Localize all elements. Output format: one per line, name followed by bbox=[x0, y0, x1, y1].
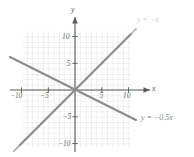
series-label-y-equals-x: y = −x bbox=[137, 16, 159, 24]
x-tick-label-neg10: −10 bbox=[10, 92, 22, 100]
y-axis-label: y bbox=[71, 6, 75, 14]
y-axis-arrowhead bbox=[72, 17, 78, 24]
x-axis-label: x bbox=[152, 85, 156, 93]
series-line-y-equals-x-head bbox=[132, 29, 137, 34]
series-line-y-equals-x-tail bbox=[14, 146, 19, 151]
y-tick-label-neg5: −5 bbox=[63, 113, 72, 121]
x-tick-label-neg5: −5 bbox=[40, 92, 49, 100]
coordinate-plane-svg bbox=[0, 0, 194, 157]
x-axis-arrowhead bbox=[144, 87, 151, 93]
x-tick-label-pos10: 10 bbox=[123, 92, 130, 100]
x-tick-label-pos5: 5 bbox=[100, 92, 104, 100]
series-label-y-equals-minus-half-x: y = −0.5x bbox=[141, 114, 173, 122]
graph-figure: −10 −5 5 10 10 5 −5 −10 y x y = −x y = −… bbox=[0, 0, 194, 157]
y-tick-label-neg10: −10 bbox=[58, 140, 70, 148]
y-tick-label-pos10: 10 bbox=[62, 33, 69, 41]
y-tick-label-pos5: 5 bbox=[67, 60, 71, 68]
